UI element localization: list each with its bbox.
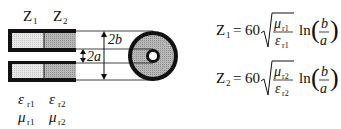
svg-text:Z: Z xyxy=(23,8,32,24)
svg-text:1: 1 xyxy=(226,30,231,40)
svg-text:ε: ε xyxy=(49,91,55,107)
svg-text:b: b xyxy=(321,64,328,79)
svg-text:Z: Z xyxy=(216,70,225,86)
svg-text:ε: ε xyxy=(275,33,281,48)
svg-text:=: = xyxy=(233,70,241,86)
svg-text:): ) xyxy=(330,63,339,92)
svg-text:ε: ε xyxy=(18,91,24,107)
section-2-dielectric-bottom xyxy=(44,64,76,78)
dimension-2a: 2a xyxy=(80,49,101,64)
svg-text:ln: ln xyxy=(299,70,311,86)
svg-text:r2: r2 xyxy=(58,117,66,127)
svg-text:60: 60 xyxy=(245,22,260,38)
equation-z2: Z 2 = 60 μ r2 ε r2 ln ( b a ) xyxy=(216,61,339,98)
label-z2: Z 2 xyxy=(53,8,68,26)
section-1-dielectric-top xyxy=(12,33,44,48)
svg-text:60: 60 xyxy=(245,70,260,86)
label-eps-r2: ε r2 xyxy=(49,91,66,109)
svg-text:2b: 2b xyxy=(108,32,122,47)
svg-text:b: b xyxy=(321,16,328,31)
dimension-2b: 2b xyxy=(101,31,122,80)
svg-text:Z: Z xyxy=(53,8,62,24)
svg-text:r1: r1 xyxy=(282,41,289,50)
label-mu-r1: μ r1 xyxy=(17,109,35,127)
svg-text:(: ( xyxy=(311,15,320,44)
svg-text:(: ( xyxy=(311,63,320,92)
svg-text:r2: r2 xyxy=(282,89,289,98)
svg-text:μ: μ xyxy=(17,109,26,125)
svg-text:2a: 2a xyxy=(87,49,101,64)
svg-text:1: 1 xyxy=(33,16,38,26)
svg-text:r1: r1 xyxy=(27,99,35,109)
coax-end-view xyxy=(130,33,176,79)
coax-diagram: Z 1 Z 2 2b xyxy=(0,0,341,129)
section-1-dielectric-bottom xyxy=(12,64,44,78)
svg-text:ln: ln xyxy=(299,22,311,38)
section-2-dielectric-top xyxy=(44,33,76,48)
svg-text:Z: Z xyxy=(216,22,225,38)
svg-text:a: a xyxy=(320,81,327,96)
svg-text:r2: r2 xyxy=(58,99,66,109)
label-eps-r1: ε r1 xyxy=(18,91,35,109)
equation-z1: Z 1 = 60 μ r1 ε r1 ln ( b a ) xyxy=(216,13,339,50)
svg-text:=: = xyxy=(233,22,241,38)
svg-text:ε: ε xyxy=(275,81,281,96)
label-mu-r2: μ r2 xyxy=(48,109,66,127)
label-z1: Z 1 xyxy=(23,8,38,26)
bottom-section xyxy=(8,61,76,82)
svg-text:2: 2 xyxy=(226,78,231,88)
svg-text:μ: μ xyxy=(273,64,281,79)
svg-text:r1: r1 xyxy=(27,117,35,127)
svg-text:a: a xyxy=(320,33,327,48)
top-section xyxy=(8,29,76,52)
svg-text:2: 2 xyxy=(63,16,68,26)
svg-text:): ) xyxy=(330,15,339,44)
svg-text:μ: μ xyxy=(48,109,57,125)
svg-text:μ: μ xyxy=(273,16,281,31)
